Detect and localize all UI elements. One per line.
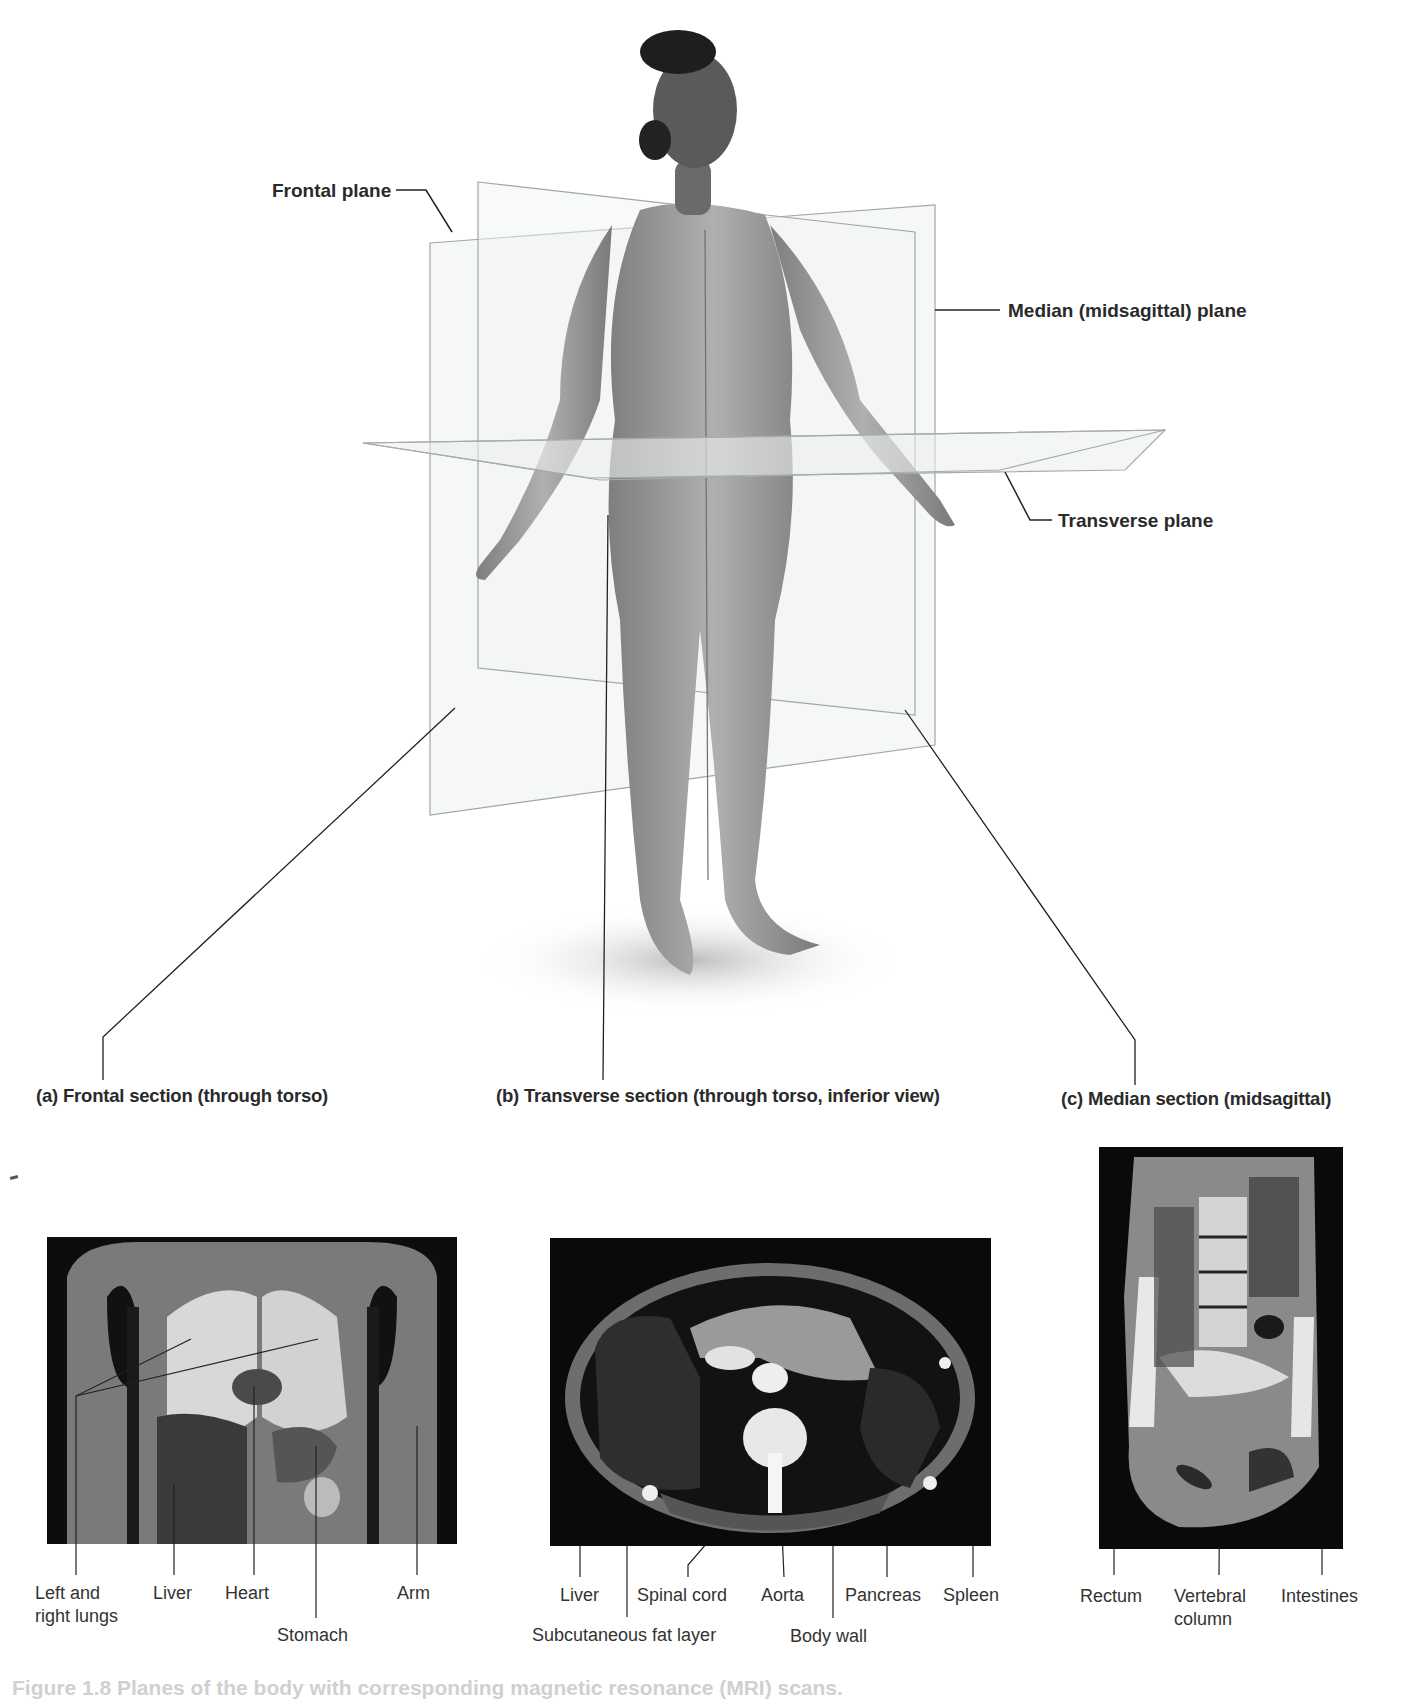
body-planes-figure [0,0,1417,1090]
label-a-liver: Liver [153,1583,192,1604]
body-hair [640,30,716,74]
label-b-pancreas: Pancreas [845,1585,921,1606]
frontal-mri-image [47,1237,457,1544]
label-a-lungs-line2: right lungs [35,1606,118,1627]
median-plane-label: Median (midsagittal) plane [1008,300,1247,322]
label-a-arm: Arm [397,1583,430,1604]
label-c-vertebral-line2: column [1174,1609,1232,1630]
label-c-rectum: Rectum [1080,1586,1142,1607]
frontal-plane-leader [396,190,452,232]
section-a-leader [103,708,455,1080]
label-a-lungs-line1: Left and [35,1583,100,1604]
transverse-ct-image [550,1238,991,1546]
figure-caption: Figure 1.8 Planes of the body with corre… [12,1676,843,1700]
median-mri-image [1099,1147,1343,1549]
scan-transverse-ct [550,1238,991,1546]
label-b-subcutaneous-fat: Subcutaneous fat layer [532,1625,716,1646]
body-hair-bun [639,120,671,160]
stray-mark [10,1175,19,1180]
label-c-intestines: Intestines [1281,1586,1358,1607]
scan-frontal-mri [47,1237,457,1544]
label-b-body-wall: Body wall [790,1626,867,1647]
label-b-liver: Liver [560,1585,599,1606]
label-b-aorta: Aorta [761,1585,804,1606]
label-c-vertebral-line1: Vertebral [1174,1586,1246,1607]
transverse-plane-leader [1005,472,1052,520]
label-b-spleen: Spleen [943,1585,999,1606]
scan-median-mri [1099,1147,1343,1549]
section-a-title: (a) Frontal section (through torso) [36,1085,328,1107]
section-b-title: (b) Transverse section (through torso, i… [496,1085,940,1107]
body-neck [675,160,711,215]
anatomical-illustration: Frontal plane Median (midsagittal) plane… [0,0,1417,1090]
section-c-leader [905,710,1135,1085]
section-c-title: (c) Median section (midsagittal) [1061,1088,1331,1110]
label-a-heart: Heart [225,1583,269,1604]
label-b-spinal-cord: Spinal cord [637,1585,727,1606]
transverse-plane-label: Transverse plane [1058,510,1213,532]
label-a-stomach: Stomach [277,1625,348,1646]
frontal-plane-label: Frontal plane [272,180,391,202]
